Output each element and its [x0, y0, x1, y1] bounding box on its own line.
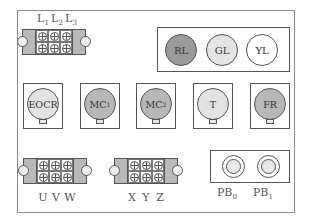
screw-icon [154, 173, 163, 182]
terminal-label-x: X [126, 191, 138, 204]
push-button-pb0 [222, 155, 245, 178]
relay-body: T [197, 88, 229, 120]
screw-icon [38, 32, 47, 41]
terminal-mount [24, 159, 36, 183]
screw-icon [154, 161, 163, 170]
push-button-cap-icon [261, 159, 276, 174]
terminal-label-w: W [63, 191, 77, 204]
relay-body: EOCR [27, 88, 59, 120]
screw-icon [142, 161, 151, 170]
screw-icon [51, 173, 60, 182]
relay-body: MC2 [140, 88, 172, 120]
push-button-cap-icon [226, 159, 241, 174]
relay-fr: FR [250, 83, 290, 129]
power-terminal-block [22, 29, 86, 55]
terminal-mount [74, 159, 86, 183]
aux-terminal-block [114, 158, 178, 184]
terminal-label-y: Y [140, 191, 152, 204]
screw-icon [50, 32, 59, 41]
terminal-mount [73, 30, 85, 54]
screw-icon [130, 173, 139, 182]
push-button-box [210, 150, 290, 183]
pilot-lamp-box: RL GL YL [157, 27, 290, 72]
terminal-label-z: Z [154, 191, 166, 204]
screw-icon [142, 173, 151, 182]
relay-socket-icon [152, 119, 160, 124]
mount-hole-icon [17, 36, 28, 47]
push-button-label-pb1: PB1 [250, 186, 276, 201]
screw-icon [63, 173, 72, 182]
relay-eocr: EOCR [23, 83, 63, 129]
mount-hole-icon [109, 165, 120, 176]
relay-t: T [193, 83, 233, 129]
screw-icon [39, 173, 48, 182]
screw-icon [51, 161, 60, 170]
screw-icon [50, 44, 59, 53]
relay-mc2: MC2 [136, 83, 176, 129]
relay-socket-icon [209, 119, 217, 124]
screw-icon [63, 161, 72, 170]
screw-icon [62, 32, 71, 41]
screw-icon [62, 44, 71, 53]
lamp-yl: YL [246, 34, 278, 66]
terminal-mount [165, 159, 177, 183]
lamp-rl: RL [165, 34, 197, 66]
push-button-pb1 [257, 155, 280, 178]
push-button-label-pb0: PB0 [214, 186, 240, 201]
mount-hole-icon [18, 165, 29, 176]
relay-socket-icon [266, 119, 274, 124]
mount-hole-icon [80, 36, 91, 47]
mount-hole-icon [172, 165, 183, 176]
mount-hole-icon [81, 165, 92, 176]
screw-icon [38, 44, 47, 53]
terminal-label-v: V [50, 191, 62, 204]
terminal-label-u: U [37, 191, 49, 204]
relay-body: MC1 [84, 88, 116, 120]
relay-mc1: MC1 [80, 83, 120, 129]
terminal-mount [23, 30, 35, 54]
lamp-gl: GL [206, 34, 238, 66]
terminal-label-l1: L1 [36, 12, 50, 27]
terminal-label-l3: L3 [64, 12, 78, 27]
relay-body: FR [254, 88, 286, 120]
motor-terminal-block [23, 158, 87, 184]
screw-icon [39, 161, 48, 170]
relay-socket-icon [96, 119, 104, 124]
terminal-mount [115, 159, 127, 183]
terminal-label-l2: L2 [50, 12, 64, 27]
relay-socket-icon [39, 119, 47, 124]
screw-icon [130, 161, 139, 170]
